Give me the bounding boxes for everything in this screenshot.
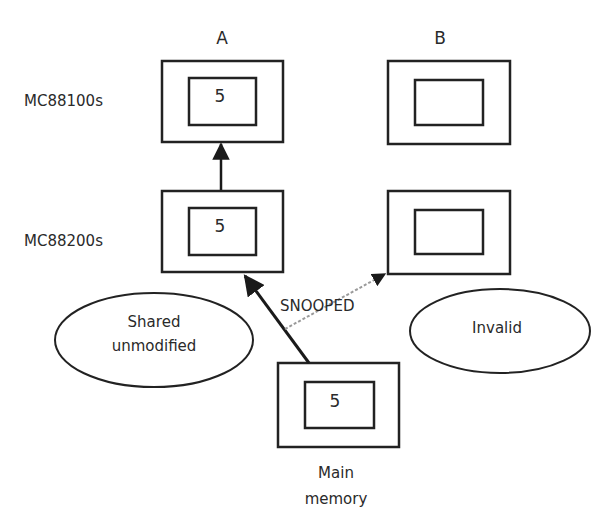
- column-label-b: B: [434, 28, 446, 48]
- value-a-mid: 5: [215, 216, 226, 236]
- cache-box-b-mc88100: [388, 61, 510, 144]
- memory-label-line1: Main: [318, 464, 354, 482]
- shared-label-line1: Shared: [128, 313, 181, 331]
- column-label-a: A: [216, 28, 228, 48]
- shared-label-line2: unmodified: [112, 337, 197, 355]
- value-a-top: 5: [215, 86, 226, 106]
- memory-label-line2: memory: [305, 490, 368, 508]
- value-memory: 5: [330, 391, 341, 411]
- row-label-mc88100: MC88100s: [24, 92, 103, 110]
- cache-box-b-mc88200: [388, 191, 510, 274]
- row-label-mc88200: MC88200s: [24, 232, 103, 250]
- arrow-memory-to-a: [245, 276, 309, 363]
- diagram-canvas: [0, 0, 607, 532]
- snooped-label: SNOOPED: [280, 297, 354, 315]
- invalid-label: Invalid: [472, 319, 522, 337]
